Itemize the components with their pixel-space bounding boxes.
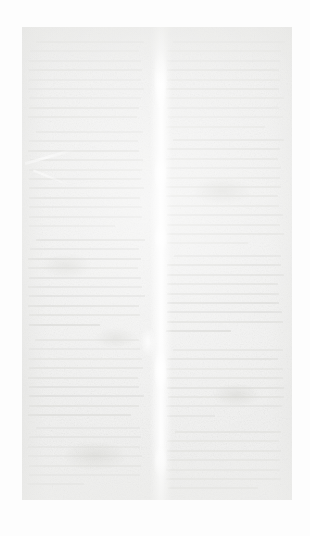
- faded-text-line: [29, 324, 100, 326]
- faded-text-line: [29, 277, 140, 279]
- faded-text-line: [166, 97, 284, 99]
- faded-text-line: [167, 233, 285, 235]
- faded-text-line: [167, 224, 280, 226]
- faded-text-line: [167, 283, 278, 285]
- faded-text-line: [29, 79, 141, 81]
- faded-text-line: [167, 415, 215, 417]
- faded-text-line: [167, 107, 279, 109]
- faded-text-line: [30, 248, 139, 250]
- faded-text-line: [36, 239, 145, 241]
- faded-text-line: [29, 465, 141, 467]
- text-column-left: [28, 27, 148, 500]
- faded-text-line: [29, 314, 140, 316]
- faded-text-line: [29, 225, 115, 227]
- faded-text-line: [30, 159, 144, 161]
- faded-text-line: [166, 88, 279, 90]
- faded-text-line: [36, 427, 140, 429]
- faded-text-line: [28, 116, 136, 118]
- faded-text-line: [36, 41, 144, 43]
- faded-text-line: [29, 367, 143, 369]
- scan-viewport: [0, 0, 310, 536]
- faded-text-line: [29, 107, 139, 109]
- faded-text-line: [174, 255, 282, 257]
- faded-text-line: [166, 469, 280, 471]
- faded-text-line: [29, 474, 140, 476]
- faded-text-line: [166, 126, 264, 128]
- faded-text-line: [29, 97, 141, 99]
- faded-text-line: [30, 50, 139, 52]
- faded-text-line: [28, 88, 144, 90]
- faded-text-line: [166, 167, 281, 169]
- faded-text-line: [167, 60, 281, 62]
- faded-text-line: [28, 258, 141, 260]
- faded-text-line: [29, 169, 142, 171]
- faded-text-line: [167, 69, 280, 71]
- faded-text-line: [29, 187, 145, 189]
- faded-text-line: [29, 395, 144, 397]
- faded-text-line: [173, 41, 285, 43]
- faded-text-line: [167, 205, 279, 207]
- faded-text-line: [28, 483, 84, 485]
- faded-text-line: [166, 330, 231, 332]
- faded-text-line: [29, 178, 141, 180]
- faded-text-line: [28, 446, 140, 448]
- faded-text-line: [28, 305, 139, 307]
- faded-text-line: [28, 377, 138, 379]
- faded-text-line: [167, 79, 280, 81]
- faded-text-line: [167, 148, 281, 150]
- faded-text-line: [167, 311, 282, 313]
- faded-text-line: [167, 293, 279, 295]
- faded-text-line: [28, 414, 131, 416]
- faded-text-line: [29, 405, 139, 407]
- faded-text-line: [166, 368, 283, 370]
- faded-text-line: [28, 286, 142, 288]
- faded-text-line: [175, 431, 281, 433]
- faded-text-line: [167, 274, 285, 276]
- faded-text-line: [167, 214, 283, 216]
- faded-text-line: [29, 436, 141, 438]
- faded-text-line: [29, 386, 139, 388]
- faded-text-line: [166, 186, 281, 188]
- faded-text-line: [167, 459, 280, 461]
- faded-text-line: [35, 339, 139, 341]
- faded-text-line: [166, 405, 281, 407]
- faded-text-line: [167, 440, 279, 442]
- faded-text-line: [29, 197, 140, 199]
- faded-text-line: [167, 358, 278, 360]
- faded-text-line: [29, 60, 141, 62]
- faded-text-line: [28, 267, 138, 269]
- text-column-right: [166, 27, 288, 500]
- faded-text-line: [167, 387, 284, 389]
- faded-text-line: [29, 140, 138, 142]
- faded-text-line: [167, 321, 283, 323]
- faded-text-line: [167, 450, 281, 452]
- faded-text-line: [166, 195, 278, 197]
- faded-text-line: [29, 295, 145, 297]
- faded-text-line: [168, 487, 258, 489]
- faded-text-line: [29, 358, 143, 360]
- faded-text-line: [173, 139, 284, 141]
- faded-text-line: [168, 116, 283, 118]
- faded-text-line: [36, 131, 144, 133]
- faded-text-line: [168, 396, 284, 398]
- faded-text-line: [167, 242, 249, 244]
- faded-text-line: [29, 69, 142, 71]
- faded-text-line: [167, 377, 283, 379]
- scanned-page-sheet: [22, 27, 292, 500]
- faded-text-line: [29, 206, 142, 208]
- faded-text-line: [173, 349, 283, 351]
- faded-text-line: [167, 50, 281, 52]
- faded-text-line: [167, 264, 281, 266]
- faded-text-line: [166, 177, 280, 179]
- faded-text-line: [28, 455, 142, 457]
- faded-text-line: [166, 478, 281, 480]
- faded-text-line: [29, 348, 140, 350]
- faded-text-line: [167, 302, 279, 304]
- faded-text-line: [28, 150, 139, 152]
- faded-text-line: [166, 158, 278, 160]
- faded-text-line: [29, 216, 142, 218]
